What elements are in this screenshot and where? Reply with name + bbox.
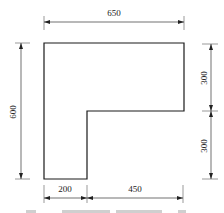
dim-label-right-lower: 300 (199, 139, 209, 153)
arrow-left-icon (44, 196, 50, 200)
arrow-up-icon (19, 43, 23, 49)
left-dimension: 600 (8, 43, 30, 179)
top-dimension: 650 (44, 8, 184, 30)
arrow-down-icon (19, 173, 23, 179)
arrow-down-icon (209, 173, 213, 179)
arrow-left-icon (87, 196, 93, 200)
arrow-left-icon (44, 20, 50, 24)
arrow-right-icon (178, 20, 184, 24)
arrow-right-icon (81, 196, 87, 200)
dim-label-right-upper: 300 (199, 71, 209, 85)
dim-label-bottom-left: 200 (58, 184, 72, 194)
arrow-up-icon (209, 111, 213, 117)
dim-label-top: 650 (107, 8, 121, 18)
l-shape-outline (44, 43, 184, 179)
arrow-up-icon (209, 44, 213, 50)
dim-label-left: 600 (8, 105, 18, 119)
arrow-down-icon (209, 105, 213, 111)
figure-caption-cutoff (26, 210, 186, 213)
dimension-diagram: 650 600 300 300 200 450 (0, 0, 224, 213)
arrow-right-icon (177, 196, 183, 200)
right-dimension: 300 300 (199, 44, 218, 179)
dim-label-bottom-right: 450 (128, 184, 142, 194)
bottom-dimension: 200 450 (44, 184, 183, 203)
